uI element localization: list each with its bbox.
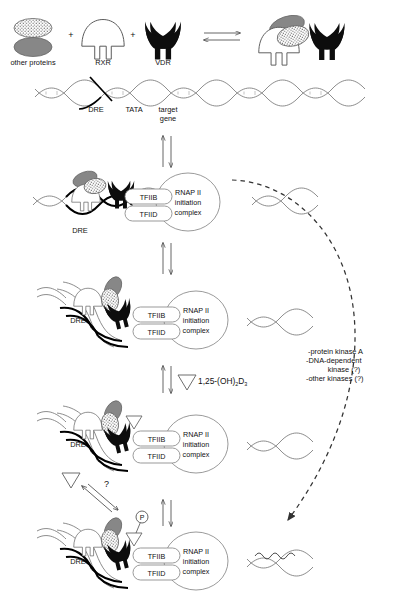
tfiib-label-panel-4: TFIIB	[148, 551, 166, 560]
vdr-monomer-glyph	[145, 21, 181, 60]
panel-4	[37, 511, 313, 590]
equilibrium-arrow-horizontal	[204, 33, 240, 40]
rnap-label-panel-2-line1: RNAP II	[183, 306, 209, 315]
ligand-subscript-3: 3	[244, 381, 247, 387]
dre-label-panel-1: DRE	[72, 227, 88, 236]
equilibrium-arrow-v4	[163, 500, 171, 526]
other-proteins-label: other proteins	[10, 59, 55, 68]
tfiid-label-panel-1: TFIID	[140, 209, 158, 218]
ligand-name-text: 1,25-(OH)	[198, 376, 235, 386]
rnap-label-panel-4-line3: complex	[183, 567, 210, 576]
plus-sign-2: +	[130, 31, 135, 40]
rnap-label-panel-4-line1: RNAP II	[183, 547, 209, 556]
rnap-label-panel-3-line2: initiation	[183, 440, 209, 449]
vdr-label: VDR	[155, 59, 171, 68]
other-proteins-glyph	[14, 19, 52, 57]
rnap-label-panel-1-line3: complex	[175, 208, 202, 217]
tfiib-label-panel-3: TFIIB	[148, 434, 166, 443]
dna-helix-top	[35, 80, 365, 106]
dre-label-panel-4: DRE	[70, 558, 86, 567]
tfiid-label-panel-3: TFIID	[148, 451, 166, 460]
dre-label-top: DRE	[88, 106, 104, 115]
rnap-label-panel-2-line3: complex	[183, 326, 210, 335]
equilibrium-arrow-v2	[163, 243, 171, 274]
equilibrium-arrow-v1	[163, 136, 171, 167]
tfiib-label-panel-1: TFIIB	[140, 192, 158, 201]
receptor-complex-panel-1	[71, 168, 134, 211]
heterodimer-complex-glyph	[259, 11, 345, 65]
equilibrium-arrow-diagonal	[82, 484, 118, 512]
dre-label-panel-2: DRE	[70, 317, 86, 326]
ligand-name-annotation: 1,25-(OH)2D3	[198, 377, 247, 387]
rnap-label-panel-3-line3: complex	[183, 450, 210, 459]
tfiid-label-panel-2: TFIID	[148, 327, 166, 336]
phosphate-label: P	[140, 514, 145, 521]
rxr-label: RXR	[95, 59, 111, 68]
question-mark-annotation: ?	[104, 480, 109, 489]
ligand-triangle-question	[62, 473, 80, 488]
ligand-triangle-annotation	[178, 375, 196, 390]
diagram-svg	[0, 0, 394, 604]
tfiib-label-panel-2: TFIIB	[148, 310, 166, 319]
rnap-label-panel-4-line2: initiation	[183, 557, 209, 566]
tfiid-label-panel-4: TFIID	[148, 568, 166, 577]
plus-sign-1: +	[68, 31, 73, 40]
rnap-label-panel-1-line2: initiation	[175, 198, 201, 207]
equilibrium-arrow-v3	[163, 366, 171, 393]
ligand-subscript-2: 2	[235, 381, 238, 387]
dre-label-panel-3: DRE	[70, 441, 86, 450]
rnap-label-panel-2-line2: initiation	[183, 316, 209, 325]
rxr-monomer-glyph	[82, 20, 124, 60]
panel-3	[37, 398, 313, 473]
target-gene-label-line2: gene	[160, 115, 176, 124]
rnap-label-panel-1-line1: RNAP II	[175, 188, 201, 197]
panel-2	[37, 274, 313, 349]
tata-label: TATA	[125, 106, 142, 115]
rnap-label-panel-3-line1: RNAP II	[183, 430, 209, 439]
figure-canvas: other proteins RXR VDR + + DRE TATA targ…	[0, 0, 394, 604]
kinase-line-4: -other kinases (?)	[306, 375, 364, 384]
